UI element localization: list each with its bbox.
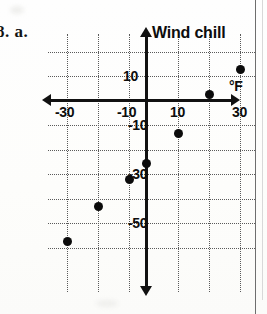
y-tick-label-10: 10: [123, 68, 138, 84]
gridline-horizontal-neg10: [48, 125, 255, 126]
gridline-horizontal-10: [48, 76, 255, 77]
scan-smudge: [10, 6, 24, 14]
x-tick-label-neg30: -30: [55, 104, 74, 120]
gridline-vertical-neg20: [98, 34, 99, 292]
gridline-horizontal-neg20: [48, 150, 255, 151]
data-point: [142, 159, 151, 168]
scan-smudge: [96, 300, 118, 307]
gridline-horizontal-neg60: [48, 248, 255, 249]
y-axis-title: Wind chill: [152, 24, 225, 42]
y-axis-arrow-down-icon: [140, 286, 152, 296]
x-axis-title: °F: [229, 78, 243, 94]
data-point: [63, 237, 72, 246]
x-tick-label-10: 10: [170, 104, 185, 120]
x-tick-label-30: 30: [232, 104, 247, 120]
gridline-horizontal-20: [48, 52, 255, 53]
data-point: [94, 202, 103, 211]
gridline-vertical-10: [178, 34, 179, 292]
data-point: [236, 65, 245, 74]
page-margin-rule-secondary: [262, 0, 263, 300]
x-axis-line: [48, 99, 234, 102]
gridline-vertical-20: [209, 34, 210, 292]
gridline-horizontal-neg40: [48, 199, 255, 200]
y-tick-label-neg50: -50: [128, 215, 147, 231]
y-axis-arrow-up-icon: [140, 27, 152, 37]
data-point: [174, 129, 183, 138]
gridline-horizontal-neg30: [48, 174, 255, 175]
x-axis-arrow-left-icon: [42, 94, 51, 106]
data-point: [205, 90, 214, 99]
gridline-vertical-neg30: [67, 34, 68, 292]
gridline-horizontal-neg50: [48, 223, 255, 224]
y-tick-label-neg10: -10: [128, 117, 147, 133]
data-point: [125, 175, 134, 184]
wind-chill-scatter-plot: Wind chill °F -30 -10 10 30 10 -10 -30 -…: [0, 0, 267, 314]
page-margin-rule: [255, 0, 256, 314]
